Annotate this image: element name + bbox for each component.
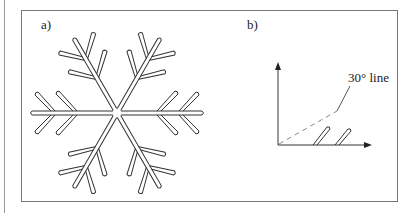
diagram-canvas	[0, 0, 419, 213]
thirty-degree-dashed-line	[279, 86, 350, 144]
branch-icon	[313, 127, 351, 145]
snowflake-icon	[31, 27, 204, 199]
axes-icon	[275, 62, 372, 148]
